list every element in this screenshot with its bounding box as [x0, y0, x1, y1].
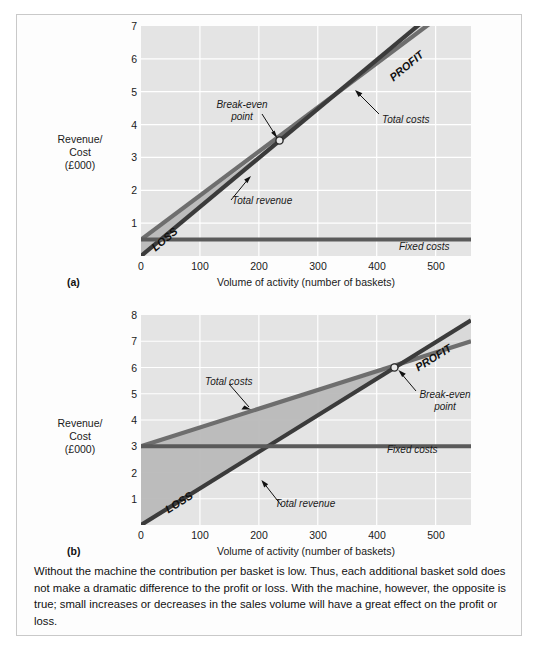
- chart-b-break-even-arrowhead: [398, 370, 405, 377]
- chart-a-xtick-200: 200: [242, 261, 276, 272]
- chart-b-ytick-2: 2: [115, 468, 137, 479]
- chart-b-total-costs-label: Total costs: [205, 376, 252, 388]
- chart-a-ytick-3: 3: [115, 152, 137, 163]
- chart-a-xtick-500: 500: [419, 261, 453, 272]
- chart-b-panel-letter: (b): [67, 545, 80, 557]
- figure-page: Revenue/ Cost (£000) 7 6 5 4 3 2 1: [0, 0, 539, 649]
- chart-a-plot-area: PROFIT LOSS: [141, 26, 471, 256]
- chart-a-total-costs-label: Total costs: [382, 114, 429, 126]
- chart-b-ytick-7: 7: [115, 336, 137, 347]
- chart-a-ytick-5: 5: [115, 87, 137, 98]
- chart-a-xtick-300: 300: [301, 261, 335, 272]
- chart-a-ytick-4: 4: [115, 120, 137, 131]
- chart-panel-a: Revenue/ Cost (£000) 7 6 5 4 3 2 1: [17, 15, 523, 301]
- chart-a-y-axis-title-line-2: Cost: [41, 146, 119, 159]
- chart-b-xtick-0: 0: [124, 530, 158, 541]
- chart-b-y-axis-title: Revenue/ Cost (£000): [41, 417, 119, 456]
- chart-b-y-axis-title-line-3: (£000): [41, 443, 119, 456]
- chart-b-y-axis-title-line-1: Revenue/: [41, 417, 119, 430]
- chart-a-xtick-0: 0: [124, 261, 158, 272]
- chart-b-x-axis-title: Volume of activity (number of baskets): [141, 545, 471, 557]
- chart-b-xtick-300: 300: [301, 530, 335, 541]
- chart-panel-b: Revenue/ Cost (£000) 8 7 6 5 4 3 2 1: [17, 305, 523, 585]
- chart-b-ytick-8: 8: [115, 310, 137, 321]
- chart-b-ytick-3: 3: [115, 441, 137, 452]
- chart-a-y-axis-title-line-3: (£000): [41, 159, 119, 172]
- chart-a-y-axis-title: Revenue/ Cost (£000): [41, 133, 119, 172]
- chart-a-fixed-costs-label: Fixed costs: [399, 241, 450, 253]
- chart-a-ytick-7: 7: [115, 21, 137, 32]
- chart-b-total-revenue-arrowhead: [261, 480, 268, 487]
- chart-b-fixed-costs-label: Fixed costs: [387, 444, 438, 456]
- chart-a-break-even-label: Break-even point: [199, 99, 285, 123]
- chart-b-total-costs-arrowhead: [241, 406, 251, 410]
- chart-a-x-axis-title: Volume of activity (number of baskets): [141, 276, 471, 288]
- chart-b-y-axis-title-line-2: Cost: [41, 430, 119, 443]
- chart-b-break-even-label: Break-even point: [402, 389, 488, 413]
- chart-b-xtick-400: 400: [360, 530, 394, 541]
- chart-b-xtick-200: 200: [242, 530, 276, 541]
- chart-b-ytick-4: 4: [115, 415, 137, 426]
- chart-b-xtick-500: 500: [419, 530, 453, 541]
- chart-b-ytick-6: 6: [115, 363, 137, 374]
- chart-a-profit-region: [280, 26, 472, 141]
- chart-a-break-even-label-line-1: Break-even: [199, 99, 285, 111]
- chart-b-total-revenue-label: Total revenue: [275, 498, 335, 510]
- chart-a-ytick-1: 1: [115, 218, 137, 229]
- chart-a-break-even-label-line-2: point: [199, 111, 285, 123]
- chart-a-xtick-100: 100: [183, 261, 217, 272]
- chart-b-break-even-marker: [391, 364, 398, 371]
- figure-caption: Without the machine the contribution per…: [34, 563, 508, 629]
- chart-b-break-even-label-line-1: Break-even: [402, 389, 488, 401]
- chart-a-ytick-2: 2: [115, 185, 137, 196]
- chart-a-xtick-400: 400: [360, 261, 394, 272]
- figure-card: Revenue/ Cost (£000) 7 6 5 4 3 2 1: [16, 14, 522, 636]
- chart-b-ytick-1: 1: [115, 494, 137, 505]
- chart-a-y-axis-title-line-1: Revenue/: [41, 133, 119, 146]
- chart-b-ytick-5: 5: [115, 389, 137, 400]
- chart-b-xtick-100: 100: [183, 530, 217, 541]
- chart-b-break-even-label-line-2: point: [402, 401, 488, 413]
- chart-a-panel-letter: (a): [67, 276, 80, 288]
- chart-a-ytick-6: 6: [115, 54, 137, 65]
- chart-a-total-revenue-label: Total revenue: [232, 195, 292, 207]
- chart-b-plot-area: PROFIT LOSS: [141, 315, 471, 525]
